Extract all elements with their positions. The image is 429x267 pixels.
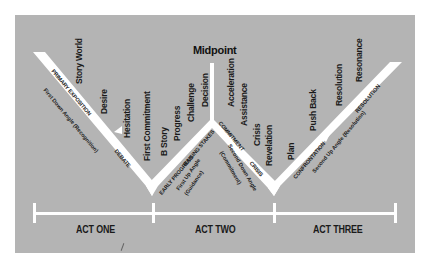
beat-plan: Plan [286, 143, 296, 160]
timeline-tick-end [394, 203, 397, 223]
timeline-bar [34, 212, 396, 215]
beat-revelation: Revelation [264, 125, 274, 166]
beat-crisis: Crisis [252, 124, 262, 146]
beat-progress: Progress [172, 106, 182, 141]
beat-story-world: Story World [74, 38, 84, 84]
beat-challenge: Challenge [186, 83, 196, 122]
timeline-tick-act3 [273, 203, 276, 223]
beat-hesitation: Hesitation [122, 99, 132, 138]
beat-first-commitment: First Commitment [142, 91, 152, 161]
beat-desire: Desire [99, 89, 109, 114]
act-two-label: ACT TWO [195, 223, 235, 235]
midpoint-label: Midpoint [193, 44, 236, 56]
beat-acceleration: Acceleration [226, 58, 236, 107]
beat-resonance: Resonance [354, 38, 364, 82]
timeline-tick-act2 [152, 203, 155, 223]
beat-decision: Decision [200, 73, 210, 107]
midpoint-line [210, 63, 214, 123]
beat-resolution: Resolution [334, 64, 344, 106]
act-one-label: ACT ONE [76, 223, 115, 235]
beat-assistance: Assistance [239, 83, 249, 126]
beat-push-back: Push Back [308, 89, 318, 131]
timeline-tick-start [33, 203, 36, 223]
beat-b-story: B Story [159, 127, 169, 156]
act-three-label: ACT THREE [313, 223, 363, 235]
